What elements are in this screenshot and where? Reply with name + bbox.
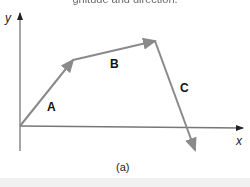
vector-diagram-figure: gnitude and direction. y x A B C (a) [0, 0, 250, 187]
vector-a-arrow [20, 60, 73, 126]
x-axis-label: x [235, 134, 243, 148]
vector-b-label: B [110, 57, 119, 71]
y-axis-label: y [4, 11, 12, 25]
bottom-band [0, 178, 250, 187]
figure-caption: (a) [116, 161, 129, 173]
vector-c-arrow [155, 41, 195, 150]
vector-addition-diagram: y x A B C (a) [0, 0, 250, 187]
vector-a-label: A [47, 100, 56, 114]
x-axis [20, 126, 243, 128]
vector-c-label: C [180, 81, 189, 95]
